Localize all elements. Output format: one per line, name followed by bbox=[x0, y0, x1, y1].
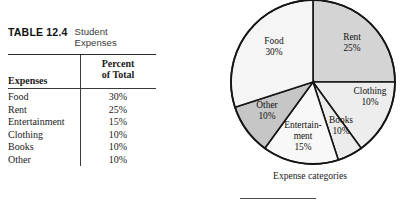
table-row: Rent 25% bbox=[8, 103, 156, 116]
pie-label-books-pct: 10% bbox=[332, 126, 349, 136]
cell-percent: 10% bbox=[80, 129, 156, 141]
cell-category: Food bbox=[8, 91, 80, 103]
cell-percent: 30% bbox=[80, 91, 156, 103]
pie-label-clothing-pct: 10% bbox=[361, 97, 378, 107]
pie-label-food-name: Food bbox=[264, 36, 284, 46]
cell-percent: 10% bbox=[80, 141, 156, 153]
table-body: Food 30% Rent 25% Entertainment 15% Clot… bbox=[8, 89, 156, 167]
cell-category: Books bbox=[8, 141, 80, 153]
bottom-divider-rule bbox=[240, 198, 316, 199]
pie-label-entertainment-line2: ment bbox=[294, 131, 313, 141]
table-grid: Expenses Percent of Total Food 30% Rent … bbox=[8, 55, 156, 167]
pie-label-books-name: Books bbox=[329, 115, 353, 125]
cell-category: Entertainment bbox=[8, 116, 80, 128]
table-row: Other 10% bbox=[8, 154, 156, 167]
column-header-percent-line1: Percent bbox=[80, 58, 156, 70]
column-header-expenses-label: Expenses bbox=[8, 75, 47, 87]
pie-chart-panel: Rent 25% Food 30% Clothing 10% Books 10%… bbox=[222, 0, 412, 211]
cell-category: Rent bbox=[8, 104, 80, 116]
table-subject: Student Expenses bbox=[75, 26, 131, 49]
table-caption: TABLE 12.4 Student Expenses bbox=[8, 26, 156, 49]
column-header-percent: Percent of Total bbox=[80, 58, 156, 88]
table-number: TABLE 12.4 bbox=[8, 26, 68, 38]
cell-percent: 25% bbox=[80, 104, 156, 116]
cell-percent: 15% bbox=[80, 116, 156, 128]
column-header-percent-line2: of Total bbox=[80, 69, 156, 81]
table-header-row: Expenses Percent of Total bbox=[8, 55, 156, 88]
table-row: Clothing 10% bbox=[8, 129, 156, 142]
table-row: Food 30% bbox=[8, 91, 156, 104]
column-header-expenses: Expenses bbox=[8, 58, 80, 88]
cell-category: Other bbox=[8, 154, 80, 166]
cell-percent: 10% bbox=[80, 154, 156, 166]
pie-label-other-name: Other bbox=[256, 100, 278, 110]
expense-pie-chart: Rent 25% Food 30% Clothing 10% Books 10%… bbox=[222, 0, 412, 172]
pie-label-other-pct: 10% bbox=[258, 111, 275, 121]
figure-root: TABLE 12.4 Student Expenses Expenses Per… bbox=[0, 0, 414, 215]
pie-label-entertainment-line1: Entertain- bbox=[284, 120, 321, 130]
pie-label-rent-name: Rent bbox=[343, 32, 361, 42]
cell-category: Clothing bbox=[8, 129, 80, 141]
expenses-table: TABLE 12.4 Student Expenses Expenses Per… bbox=[8, 26, 156, 166]
pie-label-food-pct: 30% bbox=[265, 47, 282, 57]
pie-label-entertainment-pct: 15% bbox=[294, 142, 311, 152]
table-column-divider bbox=[80, 55, 81, 167]
pie-caption: Expense categories bbox=[222, 170, 398, 181]
table-row: Books 10% bbox=[8, 141, 156, 154]
pie-label-rent-pct: 25% bbox=[343, 43, 360, 53]
pie-label-clothing-name: Clothing bbox=[354, 86, 387, 96]
table-row: Entertainment 15% bbox=[8, 116, 156, 129]
